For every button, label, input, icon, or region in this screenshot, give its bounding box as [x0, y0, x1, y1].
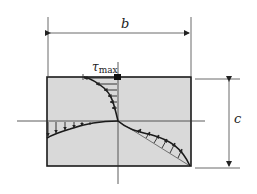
- tau-subscript: max: [99, 65, 118, 75]
- width-dimension: [48, 17, 191, 76]
- tau-max-label: τmax: [92, 60, 118, 75]
- diagram-canvas: b c τmax: [0, 0, 257, 194]
- width-label: b: [121, 16, 129, 31]
- height-label: c: [234, 111, 242, 126]
- torsion-shear-diagram: b c τmax: [0, 0, 257, 194]
